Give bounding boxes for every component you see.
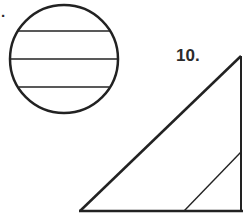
triangle-hypotenuse: [80, 56, 241, 211]
figures-canvas: [0, 0, 243, 220]
triangle-figure: [79, 56, 243, 211]
triangle-parallel-segment: [184, 152, 241, 211]
worksheet-fragment: . 10.: [0, 0, 243, 220]
circle-figure: [10, 5, 118, 113]
